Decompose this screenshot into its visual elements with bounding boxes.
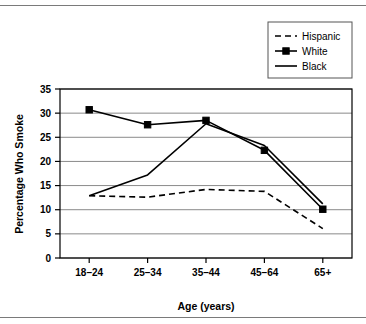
x-axis-tick-labels: 18–2425–3435–4445–6465+ — [75, 267, 331, 278]
plot-frame — [60, 89, 352, 258]
y-axis-tick-labels: 05101520253035 — [40, 84, 52, 264]
legend-label-black: Black — [302, 61, 327, 72]
y-tick-label: 20 — [40, 156, 52, 167]
data-point-marker-white — [144, 122, 150, 128]
x-tick-label: 35–44 — [192, 267, 220, 278]
x-tick-label: 45–64 — [250, 267, 278, 278]
line-chart: 05101520253035 18–2425–3435–4445–6465+ H… — [0, 0, 366, 324]
gridlines — [60, 89, 352, 258]
y-axis-ticks — [55, 89, 60, 258]
data-point-marker-white — [320, 206, 326, 212]
page-rule-bottom — [0, 317, 366, 318]
y-tick-label: 0 — [45, 253, 51, 264]
data-series — [86, 107, 326, 229]
series-line-hispanic — [89, 189, 323, 228]
x-tick-label: 65+ — [314, 267, 331, 278]
chart-legend: HispanicWhiteBlack — [268, 22, 352, 78]
series-line-black — [89, 124, 323, 204]
figure: 05101520253035 18–2425–3435–4445–6465+ H… — [0, 0, 366, 324]
data-point-marker-white — [203, 117, 209, 123]
x-axis-title: Age (years) — [177, 300, 234, 312]
x-axis-ticks — [89, 258, 323, 263]
data-point-marker-white — [86, 107, 92, 113]
legend-label-white: White — [302, 46, 328, 57]
x-tick-label: 18–24 — [75, 267, 103, 278]
y-tick-label: 10 — [40, 204, 52, 215]
y-tick-label: 25 — [40, 132, 52, 143]
legend-marker-white — [283, 48, 289, 54]
y-tick-label: 35 — [40, 84, 52, 95]
y-tick-label: 5 — [45, 228, 51, 239]
y-tick-label: 30 — [40, 108, 52, 119]
y-axis-title: Percentage Who Smoke — [13, 114, 25, 234]
page-rule-top — [0, 5, 366, 6]
x-tick-label: 25–34 — [134, 267, 162, 278]
plot-border — [60, 89, 352, 258]
y-tick-label: 15 — [40, 180, 52, 191]
legend-label-hispanic: Hispanic — [302, 31, 340, 42]
